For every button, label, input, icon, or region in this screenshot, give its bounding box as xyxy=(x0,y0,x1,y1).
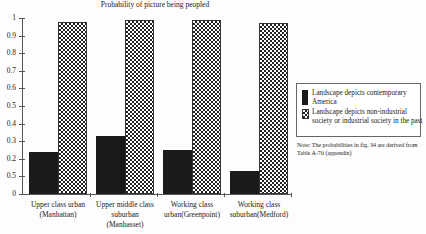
chart-title: Probability of picture being peopled xyxy=(100,0,210,9)
legend-label: Landscape depicts non-industrial society… xyxy=(312,108,424,125)
x-category-label-line: suburban(Medford) xyxy=(220,210,298,220)
legend-label: Landscape depicts contemporary America xyxy=(312,89,424,106)
y-tick xyxy=(19,88,25,89)
solid-swatch-icon xyxy=(302,90,308,105)
y-tick-label: 0.7 xyxy=(0,67,16,75)
y-tick xyxy=(19,36,25,37)
x-tick xyxy=(90,193,91,197)
bar-past xyxy=(58,22,87,194)
y-tick xyxy=(19,194,25,195)
x-category-label-line: Working class xyxy=(220,200,298,210)
y-tick xyxy=(19,18,25,19)
y-tick-label: 0.6 xyxy=(0,84,16,92)
y-tick xyxy=(19,124,25,125)
checkerboard-swatch-icon xyxy=(302,109,309,119)
x-tick xyxy=(224,193,225,197)
bar-chart: Probability of picture being peopled 10.… xyxy=(0,0,426,234)
bar-past xyxy=(125,20,154,194)
y-tick-label: 1 xyxy=(0,14,16,22)
x-category-label-line: (Manhasset) xyxy=(86,220,164,230)
x-category-label: Working classsuburban(Medford) xyxy=(220,200,298,220)
bar-contemporary xyxy=(230,171,259,194)
bar-contemporary xyxy=(96,136,125,194)
y-tick xyxy=(19,159,25,160)
bar-past xyxy=(259,23,288,194)
y-tick-label: 0.9 xyxy=(0,32,16,40)
bar-past xyxy=(192,20,221,194)
y-tick-label: 0.2 xyxy=(0,155,16,163)
y-tick xyxy=(19,176,25,177)
x-tick xyxy=(291,193,292,197)
y-tick xyxy=(19,53,25,54)
y-tick-label: 0.3 xyxy=(0,137,16,145)
bar-contemporary xyxy=(29,152,58,194)
chart-note: Note: The probabilities in fig. 34 are d… xyxy=(297,142,425,157)
y-tick xyxy=(19,106,25,107)
y-tick-label: 0.5 xyxy=(0,172,16,180)
y-tick-label: 0.8 xyxy=(0,49,16,57)
y-tick xyxy=(19,141,25,142)
y-tick xyxy=(19,71,25,72)
legend: Landscape depicts contemporary America L… xyxy=(296,83,421,137)
y-tick-label: 0 xyxy=(0,190,16,198)
y-tick-label: 0.4 xyxy=(0,120,16,128)
x-tick xyxy=(157,193,158,197)
y-tick-label: 0.5 xyxy=(0,102,16,110)
bar-contemporary xyxy=(163,150,192,194)
